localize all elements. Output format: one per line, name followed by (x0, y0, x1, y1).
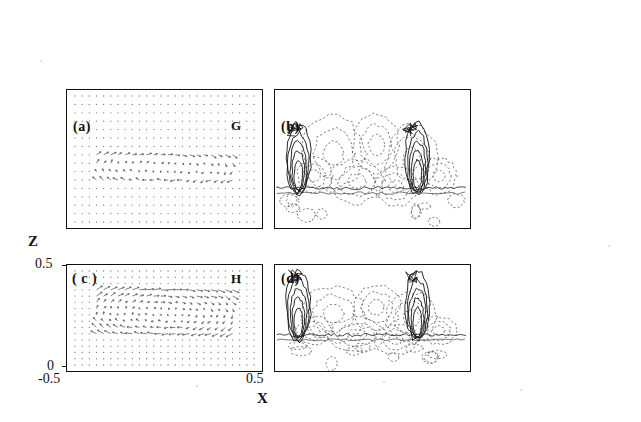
panel-b-label: (b) (281, 119, 300, 135)
x-axis-title: X (257, 390, 268, 407)
panel-d-plot (275, 265, 470, 371)
scan-speck (40, 60, 42, 62)
panel-b (274, 89, 471, 229)
scan-speck (608, 245, 610, 247)
panel-d-label: (d) (281, 271, 300, 287)
panel-a-label: (a) (73, 119, 91, 135)
scan-speck (520, 389, 522, 391)
scan-speck (383, 381, 385, 383)
y-axis-title: Z (28, 233, 38, 250)
x-tick-right: 0.5 (246, 371, 264, 387)
y-tick-upper: 0.5 (35, 256, 53, 272)
tick-y-lower (62, 366, 67, 367)
panel-a-tag: G (231, 118, 241, 134)
panel-c-tag: H (231, 271, 241, 287)
panel-b-plot (275, 90, 470, 228)
scan-speck (196, 385, 198, 387)
panel-d (274, 264, 471, 372)
tick-y-upper (62, 265, 67, 266)
panel-c-label: ( c ) (72, 271, 97, 287)
x-tick-left: -0.5 (38, 371, 60, 387)
figure-container: (a) G (b) ( c ) H (d) Z X 0.5 0 -0.5 0.5 (0, 0, 641, 422)
panel-a-plot (67, 90, 262, 228)
panel-a (66, 89, 263, 229)
